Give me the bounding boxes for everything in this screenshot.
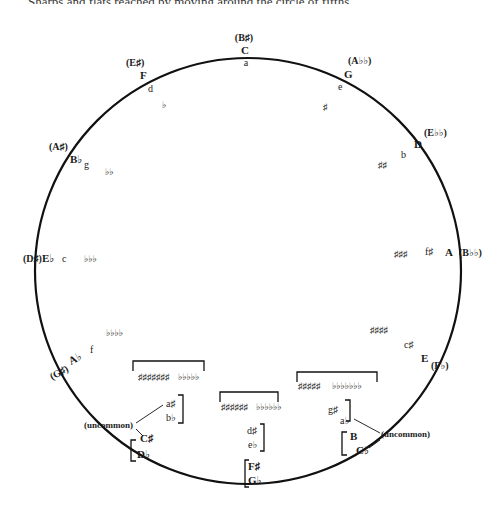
fs-key-signature-flats: ♭♭♭♭♭♭ <box>256 402 281 412</box>
f-minor-label: d <box>148 83 153 94</box>
bb-minor-label: g <box>84 159 89 170</box>
eb-key-signature: ♭♭♭ <box>84 254 97 264</box>
ab-major-label: A♭ <box>66 350 83 367</box>
fs-minor-bracket <box>260 424 264 451</box>
cs-key-signature-sharps: ♯♯♯♯♯♯♯ <box>138 372 170 382</box>
b-enharmonic-label: C♭ <box>356 444 369 456</box>
c-major-label: C <box>241 44 249 56</box>
e-key-signature: ♯♯♯♯ <box>370 325 389 335</box>
b-minor-label-sharp: g♯ <box>328 404 338 415</box>
g-key-signature: ♯ <box>323 102 328 112</box>
b-major-label: B <box>350 430 358 442</box>
fs-enharmonic-label: G♭ <box>248 474 262 486</box>
d-major-label: D <box>414 138 422 150</box>
a-key-signature: ♯♯♯ <box>394 249 408 259</box>
a-major-label: A <box>445 246 453 258</box>
ab-enharmonic-label: (G♯) <box>48 363 71 383</box>
cs-minor-label-sharp: a♯ <box>166 398 175 409</box>
fs-minor-label-flat: e♭ <box>248 439 257 450</box>
c-minor-label: a <box>244 57 249 68</box>
g-minor-label: e <box>338 81 343 92</box>
ab-minor-label: f <box>90 344 94 355</box>
fs-minor-label-sharp: d♯ <box>247 425 257 436</box>
g-enharmonic-label: (A♭♭) <box>348 55 371 67</box>
cs-key-signature-flats: ♭♭♭♭♭ <box>178 372 199 382</box>
b-key-signature-flats: ♭♭♭♭♭♭♭ <box>332 381 362 391</box>
f-enharmonic-label: (E♯) <box>126 57 144 69</box>
e-enharmonic-label: (F♭) <box>431 360 449 372</box>
d-enharmonic-label: (E♭♭) <box>424 127 447 139</box>
cs-minor-label-flat: b♭ <box>166 412 176 423</box>
a-enharmonic-label: (B♭♭) <box>459 247 482 259</box>
cs-enharmonic-label: D♭ <box>137 448 150 460</box>
uncommon-pointer-left-1 <box>136 405 163 423</box>
bb-major-label: B♭ <box>70 153 83 165</box>
f-key-signature: ♭ <box>162 100 166 110</box>
cs-major-label: C♯ <box>140 432 154 444</box>
cs-signature-bracket <box>133 361 204 371</box>
ab-key-signature: ♭♭♭♭ <box>106 328 123 338</box>
bb-enharmonic-label: (A♯) <box>49 141 68 153</box>
fs-signature-bracket <box>220 392 278 402</box>
c-enharmonic-label: (B♯) <box>235 32 253 44</box>
e-major-label: E <box>421 352 428 364</box>
f-major-label: F <box>140 69 147 81</box>
cs-minor-bracket <box>178 395 183 423</box>
d-key-signature: ♯♯ <box>378 160 388 170</box>
uncommon-note-left: (uncommon) <box>84 420 133 430</box>
uncommon-note-right: (uncommon) <box>381 429 430 439</box>
eb-minor-label: c <box>62 253 67 264</box>
b-key-signature-sharps: ♯♯♯♯♯ <box>298 381 321 391</box>
fs-key-signature-sharps: ♯♯♯♯♯♯ <box>221 402 249 412</box>
fs-major-label: F♯ <box>248 460 261 472</box>
eb-major-label: E♭ <box>42 252 55 264</box>
a-minor-label: f♯ <box>425 246 433 257</box>
b-major-bracket <box>342 432 347 455</box>
circle-of-fifths-diagram: (B♯) C a (A♭♭) G e ♯ (E♭♭) D b ♯♯ (B♭♭) … <box>0 0 502 509</box>
d-minor-label: b <box>401 149 406 160</box>
bb-key-signature: ♭♭ <box>105 167 114 177</box>
eb-enharmonic-label: (D♯) <box>23 253 42 265</box>
g-major-label: G <box>344 68 353 80</box>
e-minor-label: c♯ <box>404 339 413 350</box>
uncommon-pointer-right-1 <box>354 419 380 433</box>
